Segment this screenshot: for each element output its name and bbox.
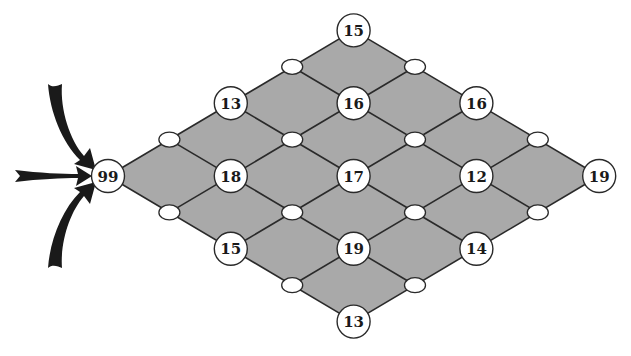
node-value: 19 xyxy=(343,240,364,258)
empty-node xyxy=(282,132,303,147)
empty-node xyxy=(405,132,426,147)
node-value: 15 xyxy=(343,22,364,40)
numbered-node: 19 xyxy=(583,160,616,193)
node-value: 18 xyxy=(220,168,241,186)
node-value: 99 xyxy=(98,168,119,186)
numbered-node: 17 xyxy=(337,160,370,193)
empty-node xyxy=(405,59,426,74)
numbered-node: 14 xyxy=(460,232,493,265)
empty-node xyxy=(527,132,548,147)
empty-node xyxy=(527,205,548,220)
node-value: 13 xyxy=(343,313,364,331)
node-value: 17 xyxy=(343,168,364,186)
node-value: 15 xyxy=(220,240,241,258)
empty-node xyxy=(405,205,426,220)
arrow-from-top-icon xyxy=(48,84,96,170)
node-value: 16 xyxy=(343,95,364,113)
node-value: 14 xyxy=(466,240,487,258)
node-value: 12 xyxy=(466,168,487,186)
node-value: 13 xyxy=(220,95,241,113)
numbered-node: 16 xyxy=(337,87,370,120)
numbered-node: 19 xyxy=(337,232,370,265)
input-arrows xyxy=(15,84,96,268)
arrow-from-left-icon xyxy=(15,166,92,186)
numbered-node: 15 xyxy=(337,14,370,47)
lattice-diagram: 99131518161517161912131419 xyxy=(0,0,631,356)
arrow-from-bottom-icon xyxy=(48,182,96,268)
numbered-node: 12 xyxy=(460,160,493,193)
numbered-node: 15 xyxy=(214,232,247,265)
numbered-node: 18 xyxy=(214,160,247,193)
node-value: 19 xyxy=(589,168,610,186)
numbered-node: 16 xyxy=(460,87,493,120)
node-value: 16 xyxy=(466,95,487,113)
empty-node xyxy=(282,59,303,74)
empty-node xyxy=(282,278,303,293)
numbered-node: 13 xyxy=(337,305,370,338)
empty-node xyxy=(282,205,303,220)
empty-node xyxy=(159,205,180,220)
numbered-node: 99 xyxy=(92,160,125,193)
numbered-node: 13 xyxy=(214,87,247,120)
empty-node xyxy=(405,278,426,293)
empty-node xyxy=(159,132,180,147)
